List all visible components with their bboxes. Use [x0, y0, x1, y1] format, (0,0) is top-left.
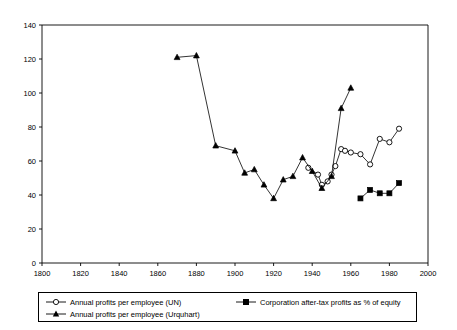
x-tick-label: 1960	[342, 269, 359, 278]
x-tick-label: 1940	[304, 269, 321, 278]
data-point-filled-triangle	[300, 155, 306, 160]
x-tick-label: 1860	[149, 269, 166, 278]
data-point-open-circle	[315, 172, 320, 177]
chart-figure: 020406080100120140 180018201840186018801…	[0, 0, 457, 330]
data-point-filled-triangle	[348, 85, 354, 90]
data-point-open-circle	[396, 126, 401, 131]
data-point-open-circle	[377, 136, 382, 141]
data-point-filled-square	[387, 191, 392, 196]
data-point-filled-square	[368, 187, 373, 192]
data-series-0	[306, 126, 402, 187]
data-point-filled-triangle	[338, 105, 344, 110]
y-tick-label: 80	[28, 123, 36, 132]
series-line-0	[308, 129, 399, 185]
data-point-filled-square	[377, 191, 382, 196]
x-axis-ticks: 1800182018401860188019001920194019601980…	[34, 263, 437, 278]
data-point-filled-triangle	[251, 166, 257, 171]
filled-square-marker-icon	[235, 297, 257, 307]
data-point-filled-square	[358, 196, 363, 201]
data-point-open-circle	[358, 152, 363, 157]
data-point-open-circle	[348, 150, 353, 155]
legend-label-corporation: Corporation after-tax profits as % of eq…	[260, 298, 400, 307]
x-tick-label: 1840	[111, 269, 128, 278]
data-point-open-circle	[368, 162, 373, 167]
data-series-2	[174, 53, 354, 201]
data-point-filled-triangle	[194, 53, 200, 58]
y-axis-ticks: 020406080100120140	[23, 21, 42, 268]
y-tick-label: 100	[23, 89, 36, 98]
axis-frame	[42, 25, 428, 263]
x-tick-label: 1880	[188, 269, 205, 278]
data-point-filled-square	[397, 181, 402, 186]
x-tick-label: 1900	[227, 269, 244, 278]
filled-triangle-marker-icon	[45, 309, 67, 319]
x-tick-label: 1820	[72, 269, 89, 278]
data-point-filled-triangle	[290, 173, 296, 178]
legend-entry-corporation: Corporation after-tax profits as % of eq…	[235, 297, 400, 307]
data-point-open-circle	[342, 148, 347, 153]
data-series-group	[174, 53, 401, 201]
x-tick-label: 2000	[420, 269, 437, 278]
chart-legend: Annual profits per employee (UN) Corpora…	[38, 292, 417, 322]
x-tick-label: 1800	[34, 269, 51, 278]
data-point-open-circle	[387, 140, 392, 145]
y-tick-label: 140	[23, 21, 36, 30]
open-circle-marker-icon	[45, 297, 67, 307]
legend-entry-urquhart: Annual profits per employee (Urquhart)	[45, 309, 200, 319]
data-point-filled-triangle	[213, 143, 219, 148]
data-point-filled-triangle	[261, 182, 267, 187]
x-tick-label: 1980	[381, 269, 398, 278]
y-tick-label: 0	[32, 259, 36, 268]
y-tick-label: 20	[28, 225, 36, 234]
y-tick-label: 60	[28, 157, 36, 166]
data-series-1	[358, 181, 402, 201]
legend-label-urquhart: Annual profits per employee (Urquhart)	[70, 310, 200, 319]
x-tick-label: 1920	[265, 269, 282, 278]
chart-plot-area: 020406080100120140 180018201840186018801…	[0, 0, 457, 330]
axis-group	[42, 25, 428, 263]
series-line-2	[177, 56, 351, 199]
y-tick-label: 120	[23, 55, 36, 64]
y-tick-label: 40	[28, 191, 36, 200]
legend-label-un: Annual profits per employee (UN)	[70, 298, 181, 307]
legend-entry-un: Annual profits per employee (UN)	[45, 297, 181, 307]
